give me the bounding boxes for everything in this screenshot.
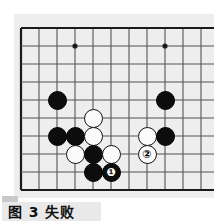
stone-label: ② <box>139 146 156 163</box>
stone-black[interactable] <box>84 163 103 182</box>
stone-black[interactable] <box>84 145 103 164</box>
stone-white[interactable] <box>66 145 85 164</box>
stone-black[interactable] <box>48 127 67 146</box>
stone-label <box>67 146 84 163</box>
stone-black[interactable] <box>156 127 175 146</box>
stone-label <box>85 110 102 127</box>
stone-white[interactable] <box>84 109 103 128</box>
stone-white[interactable] <box>84 127 103 146</box>
stone-label <box>85 146 102 163</box>
go-problem-figure: ②❶ 图 3 失败 <box>0 0 214 221</box>
stone-label <box>139 128 156 145</box>
stone-label: ❶ <box>103 164 120 181</box>
star-point <box>72 43 77 48</box>
stone-black[interactable] <box>48 91 67 110</box>
stone-label <box>85 164 102 181</box>
stone-label <box>85 128 102 145</box>
stone-label <box>49 128 66 145</box>
go-board[interactable]: ②❶ <box>14 14 214 198</box>
stone-black-numbered[interactable]: ❶ <box>102 163 121 182</box>
stone-black[interactable] <box>156 91 175 110</box>
stone-white[interactable] <box>102 145 121 164</box>
stone-black[interactable] <box>66 127 85 146</box>
stone-white[interactable] <box>138 127 157 146</box>
stone-label <box>157 128 174 145</box>
stone-white-numbered[interactable]: ② <box>138 145 157 164</box>
stone-label <box>67 128 84 145</box>
stone-label <box>103 146 120 163</box>
stone-label <box>157 92 174 109</box>
figure-caption: 图 3 失败 <box>8 203 103 221</box>
star-point <box>162 43 167 48</box>
stone-label <box>49 92 66 109</box>
